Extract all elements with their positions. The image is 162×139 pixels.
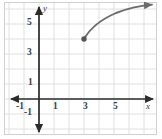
graph-figure: 5 3 1 -1 -1 1 3 5 y x — [0, 0, 162, 139]
closed-endpoint-dot — [81, 36, 86, 41]
x-tick-label-neg1: -1 — [16, 102, 24, 112]
y-axis-label: y — [43, 4, 47, 13]
x-tick-label-5: 5 — [113, 102, 118, 112]
y-tick-label-3: 3 — [27, 48, 32, 58]
x-tick-label-3: 3 — [83, 102, 88, 112]
y-tick-label-5: 5 — [27, 18, 32, 28]
y-tick-label-1: 1 — [28, 78, 33, 88]
x-tick-label-1: 1 — [53, 102, 58, 112]
coordinate-plane-svg — [0, 0, 162, 139]
y-tick-label-neg1: -1 — [24, 108, 32, 118]
x-axis-label: x — [146, 102, 150, 111]
